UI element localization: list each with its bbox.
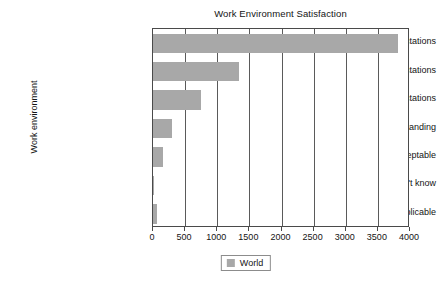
- x-axis-tick-label: 1000: [206, 232, 226, 242]
- bar[interactable]: [153, 119, 172, 139]
- x-axis-tick-mark: [345, 227, 346, 231]
- y-axis-title: Work environment: [29, 57, 39, 177]
- bar[interactable]: [153, 204, 157, 224]
- x-axis-tick-mark: [409, 227, 410, 231]
- bar-row: [153, 143, 408, 171]
- x-axis-tick-label: 2500: [303, 232, 323, 242]
- bar[interactable]: [153, 62, 239, 82]
- x-axis-tick-mark: [152, 227, 153, 231]
- x-axis-tick-label: 4000: [399, 232, 419, 242]
- x-axis-tick-mark: [377, 227, 378, 231]
- bar-row: [153, 171, 408, 199]
- x-axis-tick-label: 3000: [335, 232, 355, 242]
- bar[interactable]: [153, 34, 398, 54]
- x-axis-tick-label: 2000: [270, 232, 290, 242]
- bar-row: [153, 29, 408, 57]
- legend-swatch-world: [227, 259, 235, 267]
- bar[interactable]: [153, 176, 154, 196]
- bar[interactable]: [153, 90, 201, 110]
- chart-figure: Work Environment Satisfaction Work envir…: [0, 0, 442, 285]
- x-axis-tick-mark: [184, 227, 185, 231]
- bar-row: [153, 57, 408, 85]
- x-axis-tick-mark: [248, 227, 249, 231]
- x-axis-tick-label: 1500: [238, 232, 258, 242]
- legend-label-world: World: [240, 258, 263, 268]
- chart-legend: World: [221, 255, 271, 271]
- bar[interactable]: [153, 147, 163, 167]
- x-axis-tick-mark: [281, 227, 282, 231]
- x-axis-tick-label: 500: [177, 232, 192, 242]
- x-axis-tick-label: 0: [149, 232, 154, 242]
- x-axis-tick-mark: [313, 227, 314, 231]
- bar-row: [153, 86, 408, 114]
- bar-row: [153, 114, 408, 142]
- chart-title: Work Environment Satisfaction: [152, 8, 409, 19]
- x-axis-tick-mark: [216, 227, 217, 231]
- x-axis-tick-label: 3500: [367, 232, 387, 242]
- bar-row: [153, 200, 408, 228]
- plot-area: [152, 28, 409, 227]
